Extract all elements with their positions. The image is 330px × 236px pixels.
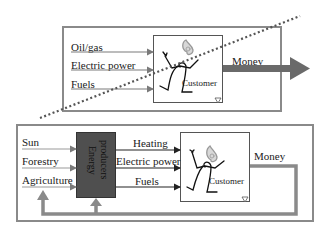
bottom-customer-figure-icon <box>187 146 224 192</box>
top-customer-figure-icon <box>160 40 198 92</box>
money-loop-arrowhead-agriculture-icon <box>37 190 49 200</box>
money-loop-arrow-icon <box>43 166 296 214</box>
top-money-arrow-icon <box>223 57 310 80</box>
output-arrows <box>116 150 180 187</box>
money-loop-arrowhead-producers-icon <box>90 198 102 206</box>
top-customer-page-curl-icon <box>215 98 221 103</box>
top-input-arrows <box>71 52 153 89</box>
diagram-arrows <box>0 0 330 236</box>
bottom-customer-page-curl-icon <box>242 197 248 202</box>
source-arrows <box>22 149 76 187</box>
